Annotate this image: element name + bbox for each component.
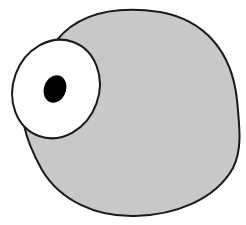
creature-illustration [0, 0, 246, 225]
illustration-canvas [0, 0, 246, 225]
